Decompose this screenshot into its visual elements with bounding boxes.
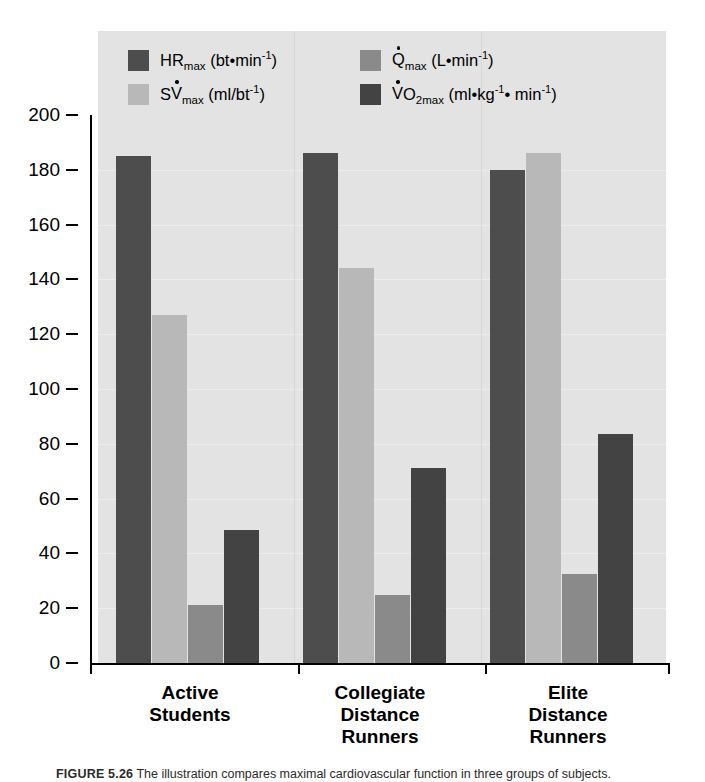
category-label-line: Students bbox=[100, 704, 280, 726]
bar-group bbox=[303, 31, 447, 663]
legend-label-vo2max-o: O bbox=[403, 84, 416, 102]
bar-svmax[interactable] bbox=[152, 315, 187, 663]
y-axis-tick-mark bbox=[66, 388, 78, 390]
y-axis-tick-mark bbox=[66, 498, 78, 500]
y-axis-tick-label: 60 bbox=[39, 488, 60, 510]
legend-label-vo2max-sub: 2max bbox=[416, 94, 444, 106]
legend-label-vo2max-sup2: -1 bbox=[541, 83, 551, 95]
bar-qmax[interactable] bbox=[375, 595, 410, 664]
bar-group bbox=[490, 31, 634, 663]
legend-label-svmax-v: V bbox=[171, 85, 182, 102]
legend-item-vo2max[interactable]: VO2max (ml•kg-1• min-1) bbox=[360, 84, 558, 106]
bar-qmax[interactable] bbox=[188, 605, 223, 663]
y-axis-tick-label: 140 bbox=[28, 268, 60, 290]
x-axis-tick-mark bbox=[668, 663, 670, 674]
legend-label-svmax-units: (ml/bt bbox=[208, 84, 249, 102]
x-axis-tick-mark bbox=[298, 663, 300, 674]
y-axis: 020406080100120140160180200 bbox=[0, 0, 98, 782]
legend-label-svmax: SVmax (ml/bt-1) bbox=[160, 84, 265, 106]
legend-label-qmax: Qmax (L•min-1) bbox=[392, 50, 494, 72]
x-axis-tick-mark bbox=[485, 663, 487, 674]
x-axis-tick-mark bbox=[90, 663, 92, 674]
legend-swatch-hrmax bbox=[128, 50, 149, 71]
y-axis-tick-label: 0 bbox=[49, 652, 60, 674]
category-label-line: Distance bbox=[478, 704, 658, 726]
legend-label-hrmax-units: (bt•min bbox=[210, 50, 262, 68]
category-label-1: ActiveStudents bbox=[100, 682, 280, 726]
legend-label-hrmax-sup: -1 bbox=[262, 49, 272, 61]
legend-label-vo2max-units: (ml•kg bbox=[449, 84, 495, 102]
y-axis-tick-mark bbox=[66, 114, 78, 116]
figure-container: HRmax (bt•min-1) Qmax (L•min-1) SVmax (m… bbox=[0, 0, 705, 782]
category-label-line: Active bbox=[100, 682, 280, 704]
category-label-line: Runners bbox=[478, 726, 658, 748]
category-label-line: Elite bbox=[478, 682, 658, 704]
legend-swatch-svmax bbox=[128, 84, 149, 105]
legend-label-qmax-units-end: ) bbox=[488, 50, 494, 68]
bar-svmax[interactable] bbox=[339, 268, 374, 663]
legend-item-hrmax[interactable]: HRmax (bt•min-1) bbox=[128, 50, 360, 72]
y-axis-tick-mark bbox=[66, 662, 78, 664]
y-axis-tick-mark bbox=[66, 333, 78, 335]
bar-hrmax[interactable] bbox=[303, 153, 338, 663]
y-axis-tick-label: 180 bbox=[28, 159, 60, 181]
legend-label-vo2max-sup: -1 bbox=[495, 83, 505, 95]
chart-legend: HRmax (bt•min-1) Qmax (L•min-1) SVmax (m… bbox=[128, 44, 558, 112]
legend-label-vo2max-units-mid: • min bbox=[504, 84, 541, 102]
y-axis-tick-mark bbox=[66, 169, 78, 171]
legend-swatch-qmax bbox=[360, 50, 381, 71]
legend-item-svmax[interactable]: SVmax (ml/bt-1) bbox=[128, 84, 360, 106]
legend-label-qmax-units: (L•min bbox=[431, 50, 478, 68]
figure-caption: FIGURE 5.26 The illustration compares ma… bbox=[56, 767, 696, 782]
legend-swatch-vo2max bbox=[360, 84, 381, 105]
y-axis-tick-mark bbox=[66, 443, 78, 445]
y-axis-tick-label: 40 bbox=[39, 542, 60, 564]
category-label-line: Collegiate bbox=[290, 682, 470, 704]
y-axis-tick-mark bbox=[66, 607, 78, 609]
legend-label-qmax-sub: max bbox=[405, 60, 427, 72]
legend-label-svmax-s: S bbox=[160, 84, 171, 102]
legend-label-vo2max-v: V bbox=[392, 85, 403, 102]
legend-label-qmax-main: Q bbox=[392, 51, 405, 68]
legend-label-hrmax-main: HR bbox=[160, 50, 184, 68]
y-axis-tick-label: 80 bbox=[39, 433, 60, 455]
legend-label-hrmax-sub: max bbox=[184, 60, 206, 72]
y-axis-tick-label: 160 bbox=[28, 214, 60, 236]
y-axis-tick-label: 100 bbox=[28, 378, 60, 400]
legend-label-qmax-sup: -1 bbox=[478, 49, 488, 61]
category-label-2: CollegiateDistanceRunners bbox=[290, 682, 470, 749]
legend-label-vo2max-units-end: ) bbox=[551, 84, 557, 102]
legend-label-svmax-sub: max bbox=[182, 94, 204, 106]
bar-vo2max[interactable] bbox=[224, 530, 259, 663]
legend-label-svmax-units-end: ) bbox=[259, 84, 265, 102]
legend-label-hrmax: HRmax (bt•min-1) bbox=[160, 50, 277, 72]
figure-number: FIGURE 5.26 bbox=[56, 767, 133, 781]
bar-hrmax[interactable] bbox=[116, 156, 151, 663]
x-axis-line bbox=[90, 663, 670, 665]
legend-item-qmax[interactable]: Qmax (L•min-1) bbox=[360, 50, 558, 72]
bar-vo2max[interactable] bbox=[411, 468, 446, 663]
bar-svmax[interactable] bbox=[526, 153, 561, 663]
y-axis-line bbox=[90, 115, 92, 664]
y-axis-tick-mark bbox=[66, 278, 78, 280]
legend-label-svmax-sup: -1 bbox=[250, 83, 260, 95]
category-label-line: Distance bbox=[290, 704, 470, 726]
figure-caption-text: The illustration compares maximal cardio… bbox=[136, 767, 611, 781]
bar-vo2max[interactable] bbox=[598, 434, 633, 663]
category-label-3: EliteDistanceRunners bbox=[478, 682, 658, 749]
legend-label-vo2max: VO2max (ml•kg-1• min-1) bbox=[392, 84, 557, 106]
bar-qmax[interactable] bbox=[562, 574, 597, 663]
bar-hrmax[interactable] bbox=[490, 170, 525, 663]
legend-label-hrmax-units-end: ) bbox=[272, 50, 278, 68]
bars-layer bbox=[98, 31, 666, 663]
category-label-line: Runners bbox=[290, 726, 470, 748]
bar-group bbox=[116, 31, 260, 663]
y-axis-tick-mark bbox=[66, 552, 78, 554]
y-axis-tick-label: 120 bbox=[28, 323, 60, 345]
y-axis-tick-label: 20 bbox=[39, 597, 60, 619]
y-axis-tick-label: 200 bbox=[28, 104, 60, 126]
y-axis-tick-mark bbox=[66, 224, 78, 226]
